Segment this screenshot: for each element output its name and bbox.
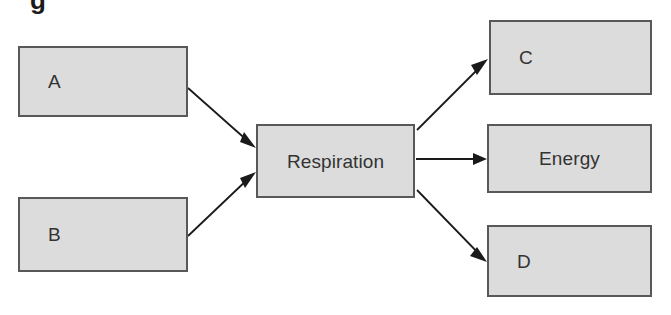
clipped-title-glyph: g [30,0,46,13]
node-energy-label: Energy [539,149,600,168]
node-a[interactable]: A [18,46,188,117]
arrow-respiration-to-c [417,59,488,130]
node-b[interactable]: B [18,197,188,272]
node-a-label: A [48,72,61,91]
node-respiration-label: Respiration [287,152,384,171]
node-energy[interactable]: Energy [487,124,652,193]
node-c-label: C [519,48,533,67]
node-d[interactable]: D [487,225,652,297]
arrow-respiration-to-energy [416,153,487,165]
node-d-label: D [517,252,531,271]
node-respiration[interactable]: Respiration [256,124,415,198]
node-b-label: B [48,225,61,244]
arrow-respiration-to-d [417,190,487,262]
arrow-a-to-respiration [188,88,256,148]
arrow-b-to-respiration [188,172,256,236]
node-c[interactable]: C [489,20,652,95]
diagram-canvas: g A B R [0,0,671,315]
